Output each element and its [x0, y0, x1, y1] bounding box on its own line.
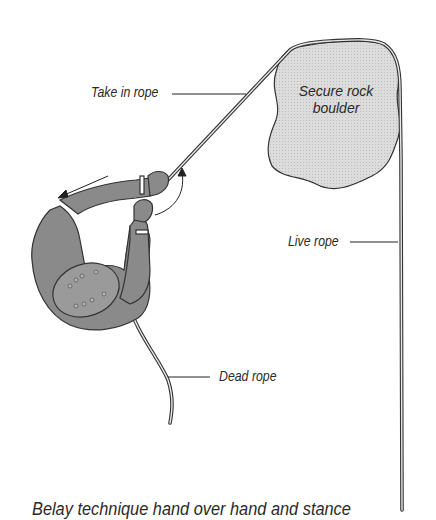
boulder-label: Secure rock boulder	[288, 83, 384, 117]
belayer-figure	[32, 172, 169, 330]
boulder-label-line2: boulder	[288, 100, 384, 117]
belay-illustration	[0, 0, 436, 520]
boulder-label-line1: Secure rock	[288, 83, 384, 100]
take-in-rope-label: Take in rope	[91, 84, 158, 100]
dead-rope-label: Dead rope	[219, 368, 277, 384]
figure-caption: Belay technique hand over hand and stanc…	[32, 498, 351, 520]
live-rope-label: Live rope	[288, 233, 339, 249]
